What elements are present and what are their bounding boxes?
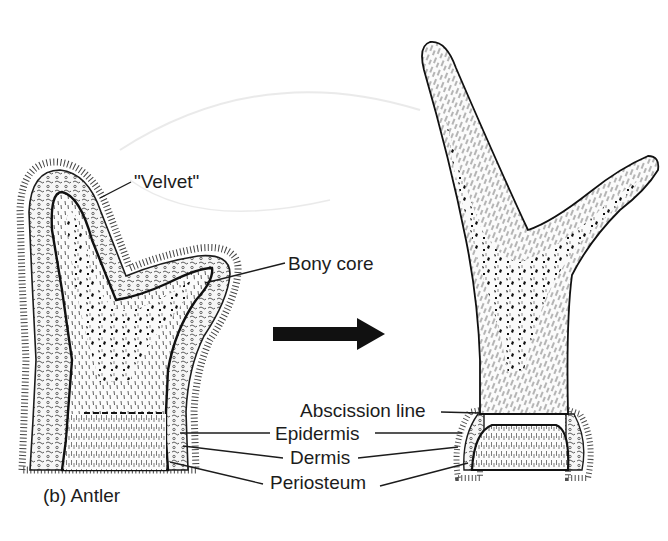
- figure-caption: (b) Antler: [43, 486, 120, 506]
- leader-dermis-right: [358, 447, 458, 458]
- label-periosteum: Periosteum: [270, 473, 366, 493]
- leader-periosteum-left: [170, 462, 263, 484]
- antler-beam: [422, 42, 658, 414]
- label-velvet: "Velvet": [134, 172, 199, 192]
- show-through-background: [120, 92, 420, 211]
- label-epidermis: Epidermis: [275, 424, 359, 444]
- label-dermis: Dermis: [290, 448, 350, 468]
- label-bony-core: Bony core: [288, 254, 374, 274]
- pedicle-bone: [472, 425, 568, 470]
- label-abscission-line: Abscission line: [300, 401, 426, 421]
- pedicle: [64, 414, 166, 470]
- leader-abscission: [441, 412, 480, 413]
- leader-velvet: [100, 182, 131, 198]
- arrow-right-icon: [273, 318, 385, 350]
- antler-diagram: "Velvet" Bony core Abscission line Epide…: [0, 0, 668, 541]
